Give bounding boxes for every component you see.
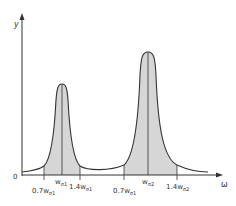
response-curve	[22, 52, 208, 172]
p1-low-label: 0.7wσ1	[32, 187, 55, 196]
p2-low-label: 0.7wσ1	[113, 187, 136, 196]
x-axis-label: ω	[221, 180, 228, 189]
p2-center-label: wσ2	[142, 178, 154, 187]
resonance-diagram: y ω 0 0.7wσ1 wσ1 1.4wσ1 0.7wσ1 wσ2 1.4wσ…	[0, 0, 236, 206]
p1-center-label: wσ1	[55, 178, 67, 187]
y-axis-label: y	[13, 20, 19, 29]
y-axis-arrow-icon	[20, 13, 25, 20]
x-axis-arrow-icon	[216, 173, 223, 178]
p1-high-label: 1.4wσ1	[69, 183, 92, 192]
origin-label: 0	[13, 173, 17, 181]
p2-high-label: 1.4wσ2	[166, 183, 189, 192]
